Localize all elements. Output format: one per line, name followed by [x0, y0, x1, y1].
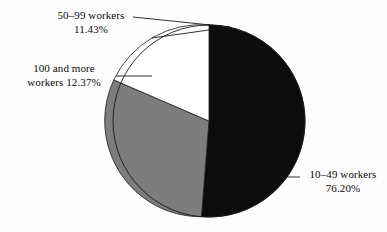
pie-label-50-99: 50–99 workers 11.43%: [44, 9, 138, 36]
pie-label-50-99-value: 11.43%: [44, 23, 138, 37]
pie-label-10-49: 10–49 workers 76.20%: [300, 168, 386, 195]
pie-label-10-49-category: 10–49 workers: [300, 168, 386, 182]
pie-label-100-more: 100 and more workers 12.37%: [12, 62, 116, 89]
pie-label-100-more-category: 100 and more: [12, 62, 116, 76]
pie-label-100-more-value: workers 12.37%: [12, 76, 116, 90]
pie-label-10-49-value: 76.20%: [300, 182, 386, 196]
pie-chart-figure: 50–99 workers 11.43% 100 and more worker…: [0, 0, 387, 232]
pie-label-50-99-category: 50–99 workers: [44, 9, 138, 23]
leader-line-50-99: [133, 17, 230, 27]
pie-slice-10-49[interactable]: [201, 25, 305, 217]
